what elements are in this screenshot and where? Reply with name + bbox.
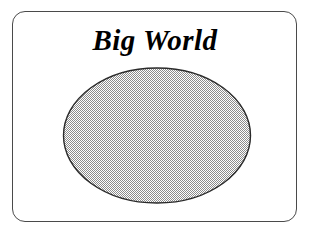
big-world-ellipse-figure bbox=[62, 66, 252, 205]
ellipse-svg bbox=[62, 66, 252, 205]
page-title: Big World bbox=[13, 24, 297, 57]
ellipse-shape bbox=[64, 68, 251, 203]
illustration-canvas: Big World bbox=[0, 0, 313, 235]
